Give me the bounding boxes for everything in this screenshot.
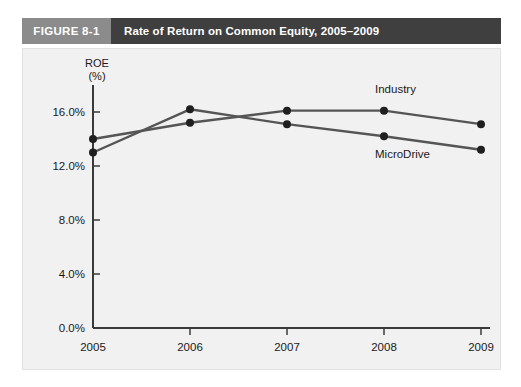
y-tick-label: 12.0% bbox=[52, 160, 85, 172]
x-tick-label: 2009 bbox=[468, 341, 494, 353]
series-label-microdrive: MicroDrive bbox=[375, 148, 430, 160]
figure-number-label: FIGURE 8-1 bbox=[33, 25, 99, 37]
y-tick-label: 0.0% bbox=[59, 322, 85, 334]
data-point-marker bbox=[283, 120, 291, 128]
line-chart: ROE (%) 0.0%4.0%8.0%12.0%16.0% 200520062… bbox=[23, 49, 502, 371]
x-tick-label: 2007 bbox=[274, 341, 300, 353]
figure-header: FIGURE 8-1 Rate of Return on Common Equi… bbox=[22, 18, 501, 44]
y-axis-title-line2: (%) bbox=[88, 70, 105, 82]
figure-title: Rate of Return on Common Equity, 2005–20… bbox=[124, 25, 379, 37]
data-point-marker bbox=[477, 120, 485, 128]
series-label-industry: Industry bbox=[375, 83, 416, 95]
figure-number-block: FIGURE 8-1 bbox=[22, 18, 111, 44]
y-tick-label: 16.0% bbox=[52, 106, 85, 118]
y-axis-title-line1: ROE bbox=[85, 57, 109, 69]
data-point-marker bbox=[89, 135, 97, 143]
y-tick-label: 8.0% bbox=[59, 214, 85, 226]
x-tick-label: 2005 bbox=[80, 341, 106, 353]
y-tick-label: 4.0% bbox=[59, 268, 85, 280]
data-point-marker bbox=[477, 146, 485, 154]
data-point-marker bbox=[186, 119, 194, 127]
data-point-marker bbox=[380, 107, 388, 115]
figure-title-block: Rate of Return on Common Equity, 2005–20… bbox=[111, 18, 501, 44]
x-tick-group: 20052006200720082009 bbox=[80, 328, 494, 353]
series-label-group: IndustryMicroDrive bbox=[375, 83, 430, 161]
chart-panel: ROE (%) 0.0%4.0%8.0%12.0%16.0% 200520062… bbox=[22, 48, 501, 370]
x-tick-label: 2008 bbox=[371, 341, 397, 353]
figure-container: FIGURE 8-1 Rate of Return on Common Equi… bbox=[0, 0, 521, 387]
data-point-marker bbox=[186, 105, 194, 113]
data-point-marker bbox=[283, 107, 291, 115]
data-point-marker bbox=[89, 149, 97, 157]
data-point-marker bbox=[380, 132, 388, 140]
x-tick-label: 2006 bbox=[177, 341, 203, 353]
